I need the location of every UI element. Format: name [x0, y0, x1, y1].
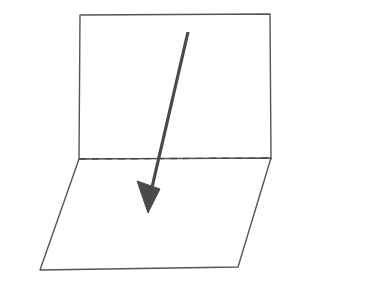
folded-plane-diagram — [0, 0, 375, 285]
figure-root — [0, 0, 375, 285]
